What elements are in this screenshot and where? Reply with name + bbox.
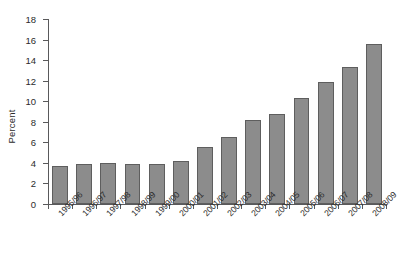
y-tick-label: 16 — [25, 34, 36, 45]
bar — [294, 98, 310, 204]
y-tick-label: 0 — [31, 199, 36, 210]
y-tick-label: 6 — [31, 137, 36, 148]
plot-area: 024681012141618 1995/961996/971997/98199… — [48, 19, 386, 204]
caption-fragment — [8, 258, 158, 265]
y-tick-label: 2 — [31, 178, 36, 189]
y-tick-label: 4 — [31, 157, 36, 168]
y-tick-label: 8 — [31, 116, 36, 127]
y-tick: 12 — [43, 81, 48, 82]
y-tick: 14 — [43, 60, 48, 61]
y-tick: 2 — [43, 183, 48, 184]
y-tick: 18 — [43, 19, 48, 20]
y-tick: 10 — [43, 101, 48, 102]
y-tick: 6 — [43, 142, 48, 143]
y-axis-title: Percent — [0, 86, 22, 166]
bar — [366, 44, 382, 204]
bar — [52, 166, 68, 204]
y-tick-label: 14 — [25, 55, 36, 66]
y-tick-label: 18 — [25, 14, 36, 25]
y-tick: 4 — [43, 163, 48, 164]
bar-chart-figure: Percent 024681012141618 1995/961996/9719… — [0, 0, 400, 265]
y-tick: 8 — [43, 122, 48, 123]
x-tick — [48, 204, 49, 209]
y-axis-title-label: Percent — [6, 109, 17, 143]
bar — [342, 67, 358, 204]
y-axis-line — [48, 19, 49, 204]
y-tick-label: 10 — [25, 96, 36, 107]
y-tick: 16 — [43, 40, 48, 41]
bar — [318, 82, 334, 204]
y-tick-label: 12 — [25, 75, 36, 86]
